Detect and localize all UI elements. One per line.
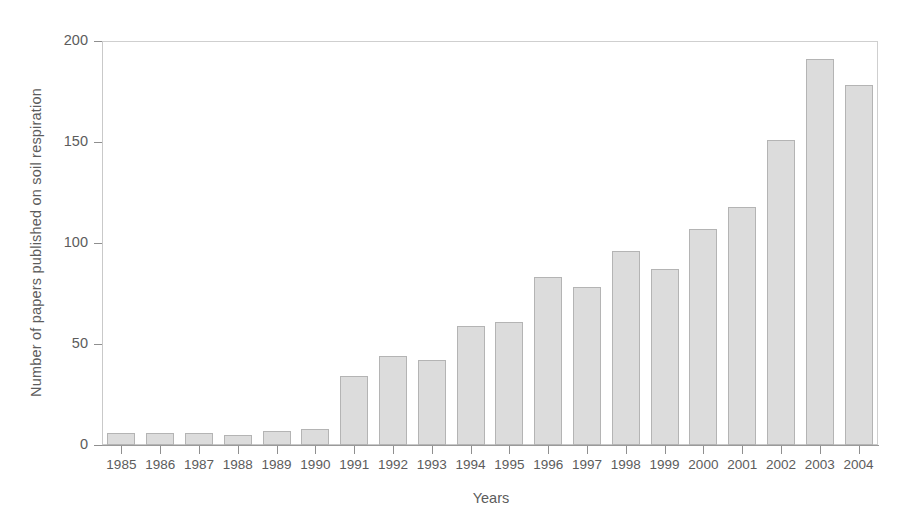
x-tick-1987 xyxy=(199,446,200,454)
x-tick-1996 xyxy=(548,446,549,454)
x-tick-1989 xyxy=(277,446,278,454)
y-tick-label-wrap: 200 xyxy=(14,41,88,42)
x-tick-2000 xyxy=(703,446,704,454)
bar-1993 xyxy=(418,360,446,445)
y-tick-0 xyxy=(94,445,102,446)
bar-1988 xyxy=(224,435,252,445)
x-tick-1992 xyxy=(393,446,394,454)
y-tick-label-wrap: 150 xyxy=(14,142,88,143)
y-tick-label-100: 100 xyxy=(18,234,88,250)
y-tick-label-50: 50 xyxy=(18,335,88,351)
x-tick-1986 xyxy=(160,446,161,454)
plot-area xyxy=(102,41,878,445)
x-tick-1993 xyxy=(432,446,433,454)
bar-1989 xyxy=(263,431,291,445)
x-tick-2002 xyxy=(781,446,782,454)
x-tick-1994 xyxy=(471,446,472,454)
bar-1999 xyxy=(651,269,679,445)
x-tick-1998 xyxy=(626,446,627,454)
y-tick-label-150: 150 xyxy=(18,133,88,149)
y-tick-200 xyxy=(94,41,102,42)
y-tick-label-0: 0 xyxy=(18,436,88,452)
bar-2002 xyxy=(767,140,795,445)
y-tick-50 xyxy=(94,344,102,345)
x-tick-1997 xyxy=(587,446,588,454)
bar-1991 xyxy=(340,376,368,445)
x-tick-1988 xyxy=(238,446,239,454)
bar-1995 xyxy=(495,322,523,445)
x-tick-1999 xyxy=(665,446,666,454)
x-axis-line xyxy=(102,445,879,446)
x-tick-2003 xyxy=(820,446,821,454)
x-tick-label-2004: 2004 xyxy=(829,457,889,472)
y-tick-label-wrap: 100 xyxy=(14,243,88,244)
bar-1990 xyxy=(301,429,329,445)
bar-1986 xyxy=(146,433,174,445)
x-tick-1985 xyxy=(121,446,122,454)
y-tick-100 xyxy=(94,243,102,244)
bar-2001 xyxy=(728,207,756,445)
bar-2004 xyxy=(845,85,873,445)
x-tick-2004 xyxy=(859,446,860,454)
x-axis-title: Years xyxy=(411,490,571,506)
bar-1996 xyxy=(534,277,562,445)
bar-chart-figure: Number of papers published on soil respi… xyxy=(0,0,911,530)
y-tick-label-200: 200 xyxy=(18,32,88,48)
x-tick-1991 xyxy=(354,446,355,454)
y-tick-label-wrap: 0 xyxy=(14,445,88,446)
y-tick-150 xyxy=(94,142,102,143)
bar-1985 xyxy=(107,433,135,445)
bar-1998 xyxy=(612,251,640,445)
bar-1987 xyxy=(185,433,213,445)
bar-1994 xyxy=(457,326,485,445)
bar-2000 xyxy=(689,229,717,445)
bar-1997 xyxy=(573,287,601,445)
x-tick-1995 xyxy=(509,446,510,454)
x-tick-1990 xyxy=(315,446,316,454)
bar-2003 xyxy=(806,59,834,445)
y-tick-label-wrap: 50 xyxy=(14,344,88,345)
x-tick-2001 xyxy=(742,446,743,454)
bar-1992 xyxy=(379,356,407,445)
